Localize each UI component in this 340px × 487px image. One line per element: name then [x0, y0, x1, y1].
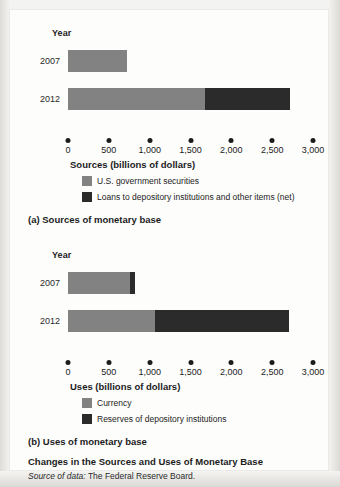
axis-tick-label: 2,000 [220, 367, 243, 377]
axis-tick-label: 1,500 [179, 367, 202, 377]
axis-tick-label: 0 [65, 367, 70, 377]
axis-tick-label: 1,000 [138, 367, 161, 377]
axis-tick-label: 500 [101, 367, 116, 377]
legend-swatch-dark-icon [82, 414, 92, 424]
bar-category-label: 2012 [28, 316, 60, 326]
axis-tick-dot [147, 360, 152, 365]
panel-b-year-axis-label: Year [52, 250, 71, 260]
bar-category-label: 2012 [28, 94, 60, 104]
axis-tick-dot [270, 138, 275, 143]
panel-a-legend-item-1: Loans to depository institutions and oth… [82, 192, 295, 202]
axis-tick-dot [188, 138, 193, 143]
panel-b-legend-item-1: Reserves of depository institutions [82, 414, 226, 424]
panel-a-axis-caption: Sources (billions of dollars) [70, 159, 195, 170]
panel-a-legend-label-1: Loans to depository institutions and oth… [97, 192, 295, 202]
axis-tick-label: 1,000 [138, 145, 161, 155]
panel-a-year-axis-label: Year [52, 28, 71, 38]
bar-category-label: 2007 [28, 278, 60, 288]
panel-b-caption: (b) Uses of monetary base [28, 436, 147, 447]
bar-segment-light [68, 272, 130, 294]
figure-sheet: Year 20072012 05001,0001,5002,0002,5003,… [10, 10, 328, 470]
axis-tick-dot [311, 360, 316, 365]
panel-b-legend-label-1: Reserves of depository institutions [97, 414, 226, 424]
axis-tick-label: 3,000 [302, 367, 325, 377]
bar-2007 [68, 50, 127, 72]
panel-a-legend-item-0: U.S. government securities [82, 176, 199, 186]
axis-tick-dot [311, 138, 316, 143]
axis-tick-dot [270, 360, 275, 365]
panel-a-legend-label-0: U.S. government securities [97, 176, 199, 186]
panel-a-plot: 20072012 [28, 44, 332, 116]
axis-tick-dot [229, 138, 234, 143]
panel-b-legend-label-0: Currency [97, 398, 131, 408]
bar-2007 [68, 272, 135, 294]
figure-source-value: The Federal Reserve Board. [88, 471, 195, 481]
axis-tick-label: 2,500 [261, 145, 284, 155]
panel-b-legend-item-0: Currency [82, 398, 131, 408]
axis-tick-label: 0 [65, 145, 70, 155]
legend-swatch-light-icon [82, 176, 92, 186]
legend-swatch-light-icon [82, 398, 92, 408]
axis-tick-dot [229, 360, 234, 365]
axis-tick-label: 1,500 [179, 145, 202, 155]
bar-segment-dark [155, 310, 290, 332]
figure-source: Source of data: The Federal Reserve Boar… [28, 471, 195, 481]
axis-tick-label: 500 [101, 145, 116, 155]
bar-segment-dark [205, 88, 290, 110]
axis-tick-label: 2,500 [261, 367, 284, 377]
panel-b-plot: 20072012 [28, 266, 332, 338]
axis-tick-dot [106, 360, 111, 365]
bar-segment-light [68, 50, 127, 72]
figure-source-label: Source of data: [28, 471, 86, 481]
axis-tick-label: 3,000 [302, 145, 325, 155]
bar-2012 [68, 88, 290, 110]
panel-b-axis-caption: Uses (billions of dollars) [70, 381, 180, 392]
bar-segment-dark [130, 272, 135, 294]
bar-segment-light [68, 88, 205, 110]
panel-a-caption: (a) Sources of monetary base [28, 214, 161, 225]
bar-category-label: 2007 [28, 56, 60, 66]
axis-tick-dot [188, 360, 193, 365]
axis-tick-dot [66, 138, 71, 143]
axis-tick-dot [106, 138, 111, 143]
bar-2012 [68, 310, 289, 332]
axis-tick-label: 2,000 [220, 145, 243, 155]
panel-a-x-axis: 05001,0001,5002,0002,5003,000 [28, 138, 332, 160]
axis-tick-dot [66, 360, 71, 365]
panel-b-x-axis: 05001,0001,5002,0002,5003,000 [28, 360, 332, 382]
axis-tick-dot [147, 138, 152, 143]
figure-title: Changes in the Sources and Uses of Monet… [28, 456, 263, 467]
page-backdrop: Year 20072012 05001,0001,5002,0002,5003,… [0, 0, 340, 487]
scan-edge-left [0, 0, 10, 487]
figure-container: Year 20072012 05001,0001,5002,0002,5003,… [28, 28, 332, 474]
legend-swatch-dark-icon [82, 192, 92, 202]
bar-segment-light [68, 310, 155, 332]
